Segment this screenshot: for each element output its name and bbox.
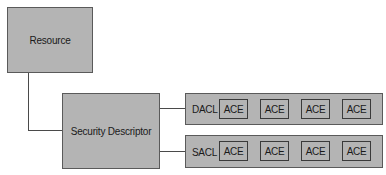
dacl-label: DACL	[192, 104, 217, 115]
resource-box: Resource	[7, 7, 93, 73]
sacl-ace-3: ACE	[301, 141, 330, 161]
sacl-box: SACL ACE ACE ACE ACE	[185, 135, 383, 168]
dacl-ace-1: ACE	[219, 99, 248, 119]
dacl-ace-3: ACE	[301, 99, 330, 119]
dacl-ace-4: ACE	[342, 99, 371, 119]
resource-label: Resource	[29, 35, 70, 46]
ace-label: ACE	[224, 104, 244, 115]
dacl-ace-2: ACE	[260, 99, 289, 119]
connector-sacl	[160, 151, 185, 152]
connector-resource-vertical	[28, 73, 29, 131]
ace-label: ACE	[347, 104, 367, 115]
sacl-ace-1: ACE	[219, 141, 248, 161]
dacl-box: DACL ACE ACE ACE ACE	[185, 93, 383, 125]
ace-label: ACE	[347, 146, 367, 157]
connector-dacl	[160, 108, 185, 109]
sacl-label: SACL	[192, 146, 217, 157]
security-descriptor-label: Security Descriptor	[71, 126, 152, 137]
ace-label: ACE	[306, 104, 326, 115]
ace-label: ACE	[265, 146, 285, 157]
security-descriptor-box: Security Descriptor	[62, 93, 160, 169]
sacl-ace-4: ACE	[342, 141, 371, 161]
sacl-ace-2: ACE	[260, 141, 289, 161]
ace-label: ACE	[224, 146, 244, 157]
ace-label: ACE	[265, 104, 285, 115]
ace-label: ACE	[306, 146, 326, 157]
connector-resource-horizontal	[28, 130, 62, 131]
